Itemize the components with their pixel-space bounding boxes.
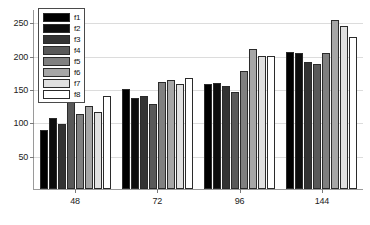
legend-item-f7[interactable]: f7 [43, 78, 80, 88]
legend-swatch-f1 [43, 13, 70, 22]
bar-f3-96 [222, 86, 230, 189]
x-axis-label: 96 [235, 196, 245, 206]
bar-f2-48 [49, 118, 57, 189]
x-axis-label: 48 [70, 196, 80, 206]
legend-swatch-f5 [43, 57, 70, 66]
bar-f8-48 [103, 96, 111, 189]
x-tick-mark [75, 189, 76, 193]
bar-f1-48 [40, 130, 48, 189]
y-axis-label: 250 [14, 18, 28, 28]
bar-f7-72 [176, 84, 184, 189]
bar-f5-72 [158, 82, 166, 189]
bar-f6-72 [167, 80, 175, 189]
legend-label: f2 [74, 24, 80, 33]
bar-f4-48 [67, 99, 75, 189]
legend-swatch-f4 [43, 46, 70, 55]
legend-swatch-f2 [43, 24, 70, 33]
bar-f3-72 [140, 96, 148, 189]
x-tick-mark [157, 189, 158, 193]
legend-swatch-f3 [43, 35, 70, 44]
legend-label: f5 [74, 57, 80, 66]
legend-item-f3[interactable]: f3 [43, 34, 80, 44]
bars [286, 10, 357, 189]
bar-f4-72 [149, 104, 157, 189]
bar-f7-144 [340, 26, 348, 189]
bar-f3-144 [304, 62, 312, 189]
legend-swatch-f7 [43, 79, 70, 88]
bar-group-144: 144 [281, 10, 363, 189]
legend-label: f7 [74, 79, 80, 88]
bar-f5-96 [240, 71, 248, 189]
x-tick-mark [240, 189, 241, 193]
bar-f2-72 [131, 98, 139, 189]
legend-item-f1[interactable]: f1 [43, 12, 80, 22]
bar-f7-48 [94, 112, 102, 189]
legend-item-f8[interactable]: f8 [43, 89, 80, 99]
bar-f7-96 [258, 56, 266, 189]
y-axis-label: 50 [18, 152, 28, 162]
legend-label: f8 [74, 90, 80, 99]
bar-f2-96 [213, 83, 221, 189]
bar-f8-144 [349, 37, 357, 189]
bar-f8-72 [185, 78, 193, 189]
legend-label: f3 [74, 35, 80, 44]
bar-group-96: 96 [199, 10, 281, 189]
legend-label: f4 [74, 46, 80, 55]
bar-f4-144 [313, 64, 321, 189]
x-axis-label: 72 [153, 196, 163, 206]
bar-f4-96 [231, 92, 239, 189]
bars [204, 10, 275, 189]
bar-f3-48 [58, 124, 66, 189]
bar-f8-96 [267, 56, 275, 189]
bar-f6-48 [85, 106, 93, 189]
bar-f1-72 [122, 89, 130, 189]
bar-f6-96 [249, 49, 257, 189]
y-axis-label: 150 [14, 85, 28, 95]
x-axis-label: 144 [315, 196, 329, 206]
legend-item-f2[interactable]: f2 [43, 23, 80, 33]
x-tick-mark [322, 189, 323, 193]
legend-label: f1 [74, 13, 80, 22]
bar-chart: 50100150200250 487296144 f1f2f3f4f5f6f7f… [0, 0, 370, 225]
legend-swatch-f8 [43, 90, 70, 99]
bar-f1-96 [204, 84, 212, 189]
y-axis-label: 200 [14, 52, 28, 62]
legend-label: f6 [74, 68, 80, 77]
legend-swatch-f6 [43, 68, 70, 77]
legend-item-f6[interactable]: f6 [43, 67, 80, 77]
legend-item-f4[interactable]: f4 [43, 45, 80, 55]
bar-f5-48 [76, 114, 84, 189]
bars [122, 10, 193, 189]
legend: f1f2f3f4f5f6f7f8 [38, 8, 85, 103]
bar-f2-144 [295, 53, 303, 189]
y-axis-label: 100 [14, 118, 28, 128]
bar-f6-144 [331, 20, 339, 189]
legend-item-f5[interactable]: f5 [43, 56, 80, 66]
bar-f1-144 [286, 52, 294, 189]
bar-group-72: 72 [116, 10, 198, 189]
bar-f5-144 [322, 53, 330, 189]
